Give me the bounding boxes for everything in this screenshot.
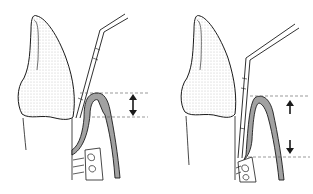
down-arrow-icon bbox=[286, 140, 294, 154]
up-arrow-icon bbox=[286, 100, 294, 114]
alveolar-bone bbox=[73, 148, 103, 180]
tooth-root bbox=[186, 116, 189, 165]
diagram-canvas bbox=[0, 0, 313, 194]
right-panel bbox=[181, 16, 310, 182]
double-arrow-icon bbox=[129, 94, 137, 116]
alveolar-bone bbox=[236, 157, 256, 182]
tooth-root bbox=[23, 118, 26, 150]
tooth-crown bbox=[181, 16, 236, 118]
tooth-crown bbox=[18, 16, 74, 120]
left-panel bbox=[18, 14, 148, 180]
